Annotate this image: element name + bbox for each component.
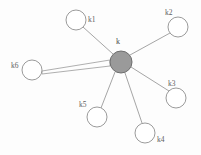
node-label-k2: k2: [165, 9, 172, 17]
node-label-k: k: [116, 38, 120, 46]
node-label-k1: k1: [88, 16, 95, 24]
edge-k-k1[interactable]: [83, 27, 113, 54]
node-label-k5: k5: [79, 101, 86, 109]
edge-k-k6[interactable]: [42, 60, 110, 74]
node-k6[interactable]: [22, 60, 42, 80]
node-label-k4: k4: [157, 136, 164, 144]
edge-k-k3[interactable]: [131, 67, 169, 91]
edge-group: [42, 27, 170, 123]
node-k1[interactable]: [66, 10, 86, 30]
edge-k-k5[interactable]: [101, 72, 115, 108]
leaf-node-group: [22, 10, 188, 143]
edge-k-k4[interactable]: [125, 73, 142, 123]
node-k5[interactable]: [87, 107, 107, 127]
edge-k-k2[interactable]: [130, 33, 170, 55]
node-k2[interactable]: [168, 17, 188, 37]
star-graph-figure: k k1 k2 k3 k4 k5 k6: [0, 0, 201, 155]
node-label-k3: k3: [168, 80, 175, 88]
node-k-center[interactable]: [110, 51, 132, 73]
node-k3[interactable]: [166, 88, 186, 108]
graph-canvas: [0, 0, 201, 155]
node-k4[interactable]: [135, 123, 155, 143]
node-label-k6: k6: [11, 62, 18, 70]
